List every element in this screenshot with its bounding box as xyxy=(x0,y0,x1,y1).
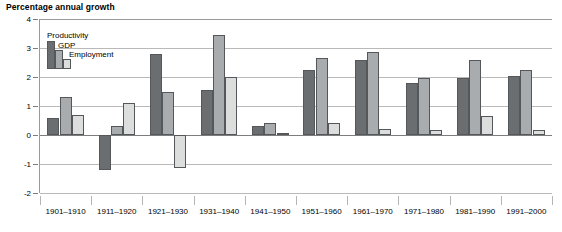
gridline-4 xyxy=(40,19,552,20)
y-tick-label: 3 xyxy=(27,44,31,53)
x-axis-label-1961–1970: 1961–1970 xyxy=(347,207,398,216)
legend-swatch-productivity xyxy=(47,41,55,69)
x-axis-label-1981–1990: 1981–1990 xyxy=(450,207,501,216)
bar-productivity-1921–1930 xyxy=(150,54,162,135)
bar-gdp-1981–1990 xyxy=(469,60,481,135)
y-tick-mark xyxy=(33,135,38,136)
y-tick-mark xyxy=(33,193,38,194)
bar-gdp-1921–1930 xyxy=(162,92,174,136)
x-axis-separator xyxy=(347,196,348,205)
y-tick-label: 2 xyxy=(27,73,31,82)
bar-gdp-1951–1960 xyxy=(316,58,328,135)
bar-productivity-1971–1980 xyxy=(406,83,418,135)
y-tick-label: 0 xyxy=(27,131,31,140)
x-axis-label-1951–1960: 1951–1960 xyxy=(296,207,347,216)
x-axis-separator xyxy=(40,196,41,205)
y-tick-mark xyxy=(33,48,38,49)
legend-label-gdp: GDP xyxy=(58,41,75,50)
x-axis-label-1941–1950: 1941–1950 xyxy=(245,207,296,216)
y-tick-mark xyxy=(33,106,38,107)
bar-employment-1941–1950 xyxy=(277,133,289,135)
bar-employment-1901–1910 xyxy=(72,115,84,135)
bar-productivity-1931–1940 xyxy=(201,90,213,135)
x-axis-separator xyxy=(91,196,92,205)
legend-label-employment: Employment xyxy=(69,50,113,59)
bar-employment-1931–1940 xyxy=(225,77,237,135)
bar-productivity-1991–2000 xyxy=(508,76,520,135)
bar-gdp-1991–2000 xyxy=(520,70,532,135)
bar-productivity-1961–1970 xyxy=(355,60,367,135)
bar-productivity-1941–1950 xyxy=(252,126,264,135)
bar-productivity-1911–1920 xyxy=(99,135,111,170)
x-axis-separator xyxy=(245,196,246,205)
x-axis-separator xyxy=(296,196,297,205)
bar-gdp-1961–1970 xyxy=(367,52,379,135)
y-tick-label: 4 xyxy=(27,15,31,24)
y-tick-label: 1 xyxy=(27,102,31,111)
gridline-3 xyxy=(40,48,552,49)
x-axis-label-1991–2000: 1991–2000 xyxy=(501,207,552,216)
bar-gdp-1901–1910 xyxy=(60,97,72,135)
x-axis-separator xyxy=(501,196,502,205)
x-axis-separator xyxy=(398,196,399,205)
bar-chart: Percentage annual growth 43210-1-2 1901–… xyxy=(0,0,562,232)
bar-productivity-1981–1990 xyxy=(457,78,469,135)
y-tick-mark xyxy=(33,19,38,20)
plot-area xyxy=(40,19,552,193)
y-tick-label: -2 xyxy=(24,189,31,198)
legend-swatch-employment xyxy=(63,59,71,69)
chart-title: Percentage annual growth xyxy=(6,2,115,12)
x-axis-label-1901–1910: 1901–1910 xyxy=(40,207,91,216)
x-axis-separator xyxy=(194,196,195,205)
bar-gdp-1971–1980 xyxy=(418,78,430,135)
x-axis-label-1911–1920: 1911–1920 xyxy=(91,207,142,216)
legend-swatch-gdp xyxy=(55,50,63,69)
bar-productivity-1951–1960 xyxy=(303,70,315,135)
y-tick-label: -1 xyxy=(24,160,31,169)
bar-gdp-1911–1920 xyxy=(111,126,123,135)
x-axis-separator xyxy=(142,196,143,205)
y-tick-mark xyxy=(33,164,38,165)
x-axis-separator xyxy=(450,196,451,205)
x-axis-label-1931–1940: 1931–1940 xyxy=(194,207,245,216)
gridline--2 xyxy=(40,193,552,194)
y-tick-mark xyxy=(33,77,38,78)
bar-employment-1991–2000 xyxy=(533,130,545,135)
bar-employment-1981–1990 xyxy=(481,116,493,135)
x-axis-separator xyxy=(552,196,553,205)
bar-employment-1911–1920 xyxy=(123,103,135,135)
bar-employment-1921–1930 xyxy=(174,135,186,168)
x-axis-label-1921–1930: 1921–1930 xyxy=(142,207,193,216)
bar-productivity-1901–1910 xyxy=(47,118,59,135)
bar-employment-1961–1970 xyxy=(379,129,391,135)
legend-label-productivity: Productivity xyxy=(47,31,88,40)
bar-gdp-1941–1950 xyxy=(264,123,276,135)
x-axis-label-1971–1980: 1971–1980 xyxy=(398,207,449,216)
gridline--1 xyxy=(40,164,552,165)
bar-employment-1971–1980 xyxy=(430,130,442,135)
bar-gdp-1931–1940 xyxy=(213,35,225,135)
bar-employment-1951–1960 xyxy=(328,123,340,135)
gridline-0 xyxy=(40,135,552,136)
